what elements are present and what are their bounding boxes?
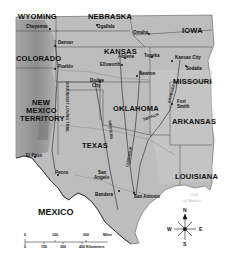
state-label-arkansas: ARKANSAS [172,118,216,126]
water-label-gulf: Gulf [190,193,198,198]
state-label-territory: TERRITORY [20,115,65,123]
city-label: Pecos [55,171,68,176]
city-label: Angelo [94,176,109,181]
state-label-texas: TEXAS [82,142,108,150]
scale-km-300: 300 [60,246,66,250]
compass-s: S [183,242,186,247]
compass-w: W [167,227,172,232]
map-canvas [0,0,234,264]
state-label-wyoming: WYOMING [18,13,57,21]
city-label: Newton [139,72,155,77]
scale-km-0: 0 [24,246,26,250]
compass-n: N [183,208,187,213]
city-label: Kansas City [175,56,201,61]
scale-miles-100: 100 [52,234,58,238]
water-label-of-mexico: of Mexico [183,199,201,204]
scale-km-450: 450 Kilometers [79,246,105,250]
scale-miles-200: 200 [83,234,89,238]
city-label: Abilene [118,55,134,60]
city-label: Pueblo [58,65,73,70]
compass-rose-icon [174,214,196,240]
city-label: Ogallala [97,25,115,30]
city-label: Smith [177,105,190,110]
city-label: Omaha [133,31,148,36]
state-label-colorado: COLORADO [16,55,61,63]
city-label: Cheyenne [26,25,48,30]
state-label-nebraska: NEBRASKA [88,13,132,21]
city-label: Bandera [95,193,113,198]
city-label: Denver [58,41,73,46]
city-label: Topeka [144,54,159,59]
trail-label-western: WESTERN [107,120,112,139]
state-label-iowa: IOWA [182,27,203,35]
city-label: San Antonio [134,195,160,200]
state-label-louisiana: LOUISIANA [175,173,218,181]
city-label: El Paso [26,154,42,159]
city-label: Ellsworth [100,63,120,68]
state-label-missouri: MISSOURI [173,78,212,86]
country-label-mexico: MEXICO [38,208,74,217]
city-label: City [92,84,101,89]
scale-miles-label: Miles [103,234,112,238]
trail-label-goodnight-loving: GOODNIGHT-LOVING TRAIL [64,81,68,132]
state-label-oklahoma: OKLAHOMA [113,105,159,113]
scale-km-150: 150 [41,246,47,250]
compass-e: E [199,227,202,232]
city-label: Sedalia [186,67,202,72]
scale-miles-0: 0 [24,234,26,238]
